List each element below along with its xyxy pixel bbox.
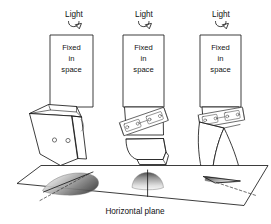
- fixed-panel-line-1: in: [69, 54, 75, 63]
- fixed-panel-line-2: space: [61, 65, 81, 74]
- horizontal-plane-label: Horizontal plane: [105, 207, 165, 216]
- fixed-panel-line-2: space: [210, 65, 230, 74]
- light-label-center: Light: [135, 10, 153, 19]
- hinged-block-object: [119, 107, 168, 165]
- light-label-right: Light: [212, 10, 230, 19]
- fixed-panel-line-1: in: [218, 54, 224, 63]
- column-right: Light Fixed in space: [198, 10, 245, 179]
- curved-down-arrow-icon: [68, 22, 81, 29]
- curved-down-arrow-icon: [138, 22, 151, 29]
- fixed-panel-line-0: Fixed: [211, 43, 230, 52]
- column-left: Light Fixed in space: [30, 10, 94, 166]
- tilted-wedge-object: [30, 105, 87, 166]
- fixed-panel-line-0: Fixed: [134, 43, 153, 52]
- horizontal-plane: Horizontal plane: [17, 166, 268, 217]
- fixed-panel-line-1: in: [141, 54, 147, 63]
- technical-diagram: Light Fixed in space Light Fixed: [0, 0, 271, 224]
- fixed-panel-line-0: Fixed: [62, 43, 81, 52]
- light-label-left: Light: [65, 10, 83, 19]
- fixed-panel-line-2: space: [133, 65, 153, 74]
- column-center: Light Fixed in space: [119, 10, 168, 165]
- curved-down-arrow-icon: [215, 22, 228, 29]
